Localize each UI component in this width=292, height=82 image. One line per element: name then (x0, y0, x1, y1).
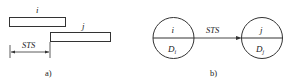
panel-b-caption: b) (210, 68, 217, 78)
lag-label: STS (22, 40, 36, 50)
panel-b: i Di STS j Dj b) (153, 18, 283, 79)
node-j-top-label: j (259, 25, 263, 35)
task-j-bar (51, 33, 111, 42)
lag-arrow-right-icon (45, 51, 49, 54)
task-i-label: i (36, 5, 39, 15)
node-i: i Di (153, 18, 194, 59)
panel-a: i j STS a) (10, 5, 111, 78)
node-i-top-label: i (172, 25, 175, 35)
task-j-label: j (81, 21, 85, 31)
sts-arrow-label: STS (206, 25, 220, 35)
node-i-bottom-label: Di (167, 44, 177, 55)
panel-a-caption: a) (45, 68, 52, 78)
lag-arrow-left-icon (11, 51, 15, 54)
node-j-bottom-label: Dj (255, 44, 265, 55)
sts-relationship-diagram: i j STS a) i Di STS j Dj b) (0, 0, 292, 82)
node-j: j Dj (242, 18, 283, 59)
task-i-bar (10, 18, 66, 27)
